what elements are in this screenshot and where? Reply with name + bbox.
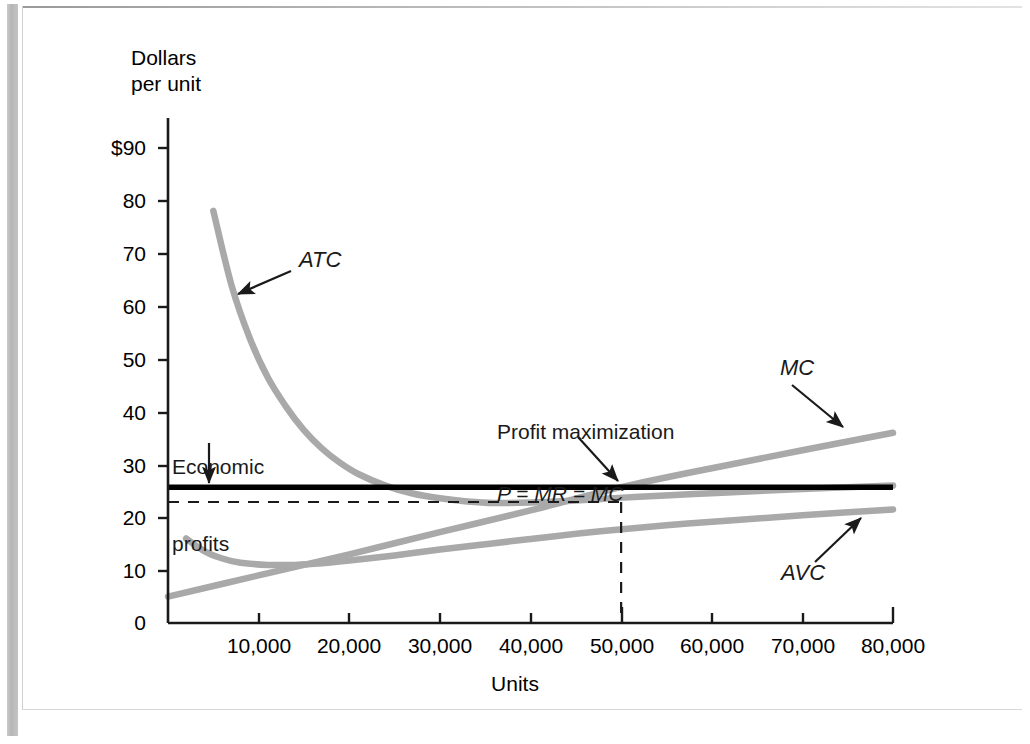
- economic-profits-line1: Economic: [172, 454, 264, 480]
- y-tick-60: 60: [86, 295, 146, 319]
- figure-page: Dollars per unit $90 80 70 60 50 40 30 2…: [0, 0, 1030, 744]
- profit-max-line2: P = MR = MC: [497, 482, 674, 507]
- profit-max-line1: Profit maximization: [497, 420, 674, 445]
- curve-label-mc: MC: [780, 356, 814, 381]
- y-axis-title: Dollars per unit: [131, 45, 201, 96]
- profit-maximization-note: Profit maximization P = MR = MC: [497, 382, 674, 545]
- y-tick-70: 70: [86, 242, 146, 266]
- economic-profits-line2: profits: [172, 531, 264, 557]
- y-tick-90: $90: [86, 136, 146, 160]
- arrow-avc: [815, 518, 861, 562]
- y-tick-80: 80: [86, 189, 146, 213]
- curve-label-atc: ATC: [299, 248, 341, 273]
- y-axis-title-line2: per unit: [131, 71, 201, 97]
- curve-label-avc: AVC: [781, 561, 825, 586]
- y-tick-30: 30: [86, 454, 146, 478]
- arrow-mc: [792, 385, 843, 427]
- y-tick-20: 20: [86, 506, 146, 530]
- x-tick-80000: 80,000: [833, 634, 953, 658]
- y-axis-title-line1: Dollars: [131, 45, 201, 71]
- x-axis-ticks: [259, 607, 893, 623]
- y-axis-ticks: [158, 148, 168, 571]
- y-tick-40: 40: [86, 401, 146, 425]
- y-tick-50: 50: [86, 348, 146, 372]
- arrow-atc: [238, 271, 291, 294]
- y-tick-0: 0: [86, 611, 146, 635]
- chart-svg: [0, 0, 1030, 744]
- y-tick-10: 10: [86, 559, 146, 583]
- x-axis-title: Units: [0, 672, 1030, 696]
- chart-canvas: Dollars per unit $90 80 70 60 50 40 30 2…: [0, 0, 1030, 744]
- economic-profits-note: Economic profits: [172, 403, 264, 608]
